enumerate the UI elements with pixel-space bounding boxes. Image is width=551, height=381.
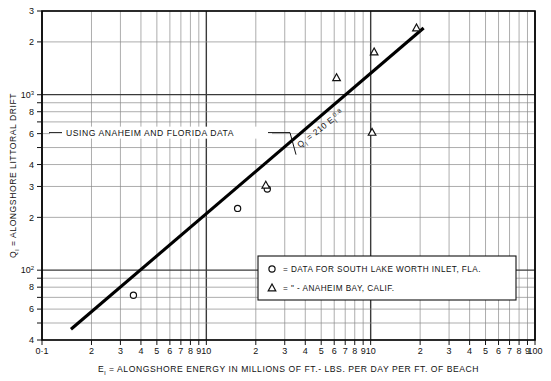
annotation-text: USING ANAHEIM AND FLORIDA DATA (66, 128, 234, 138)
legend-marker-circle (269, 266, 275, 272)
x-axis-tick-label: 6 (167, 346, 172, 356)
x-axis-tick-label: 8 (352, 346, 357, 356)
legend-label-triangle: = " - ANAHEIM BAY, CALIF. (283, 284, 394, 293)
x-axis-tick-label: 5 (154, 346, 159, 356)
x-axis-tick-label: 2 (418, 346, 423, 356)
x-axis-tick-label: 10 (201, 346, 211, 356)
x-axis-tick-label: 6 (332, 346, 337, 356)
data-point-circle (235, 205, 241, 211)
x-axis-tick-label: 3 (118, 346, 123, 356)
y-axis-tick-label: 2 (29, 37, 34, 47)
y-axis-tick-label: 6 (29, 304, 34, 314)
data-point-circle (130, 292, 136, 298)
x-axis-tick-label: 0·1 (35, 346, 48, 356)
y-axis-tick-label: 4 (29, 160, 34, 170)
x-axis-tick-label: 2 (253, 346, 258, 356)
legend-box (258, 256, 516, 300)
chart-background (0, 0, 551, 381)
x-axis-tick-label: 10 (366, 346, 376, 356)
x-axis-tick-label: 3 (282, 346, 287, 356)
x-axis-tick-label: 3 (447, 346, 452, 356)
legend-label-circle: = DATA FOR SOUTH LAKE WORTH INLET, FLA. (283, 265, 481, 274)
y-axis-tick-label: 6 (29, 129, 34, 139)
x-axis-tick-label: 5 (319, 346, 324, 356)
y-axis-tick-label: 4 (29, 335, 34, 345)
x-axis-tick-label: 8 (188, 346, 193, 356)
x-axis-tick-label: 5 (483, 346, 488, 356)
x-axis-tick-label: 6 (496, 346, 501, 356)
x-axis-tick-label: 100 (527, 346, 542, 356)
x-axis-tick-label: 4 (303, 346, 308, 356)
chart-figure: 0·12345678910234567891023456789100468102… (0, 0, 551, 381)
y-axis-tick-label: 8 (29, 282, 34, 292)
x-axis-tick-label: 4 (138, 346, 143, 356)
x-axis-tick-label: 7 (178, 346, 183, 356)
y-axis-tick-label: 3 (29, 182, 34, 192)
x-axis-tick-label: 7 (507, 346, 512, 356)
x-axis-tick-label: 7 (343, 346, 348, 356)
y-axis-tick-label: 2 (29, 213, 34, 223)
x-axis-tick-label: 2 (89, 346, 94, 356)
y-axis-tick-label: 3 (29, 6, 34, 16)
x-axis-tick-label: 4 (467, 346, 472, 356)
loglog-scatter-chart: 0·12345678910234567891023456789100468102… (0, 0, 551, 381)
x-axis-tick-label: 8 (517, 346, 522, 356)
y-axis-tick-label: 8 (29, 107, 34, 117)
